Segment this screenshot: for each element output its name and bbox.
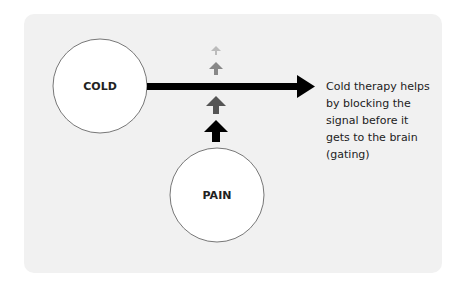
- cold-signal-arrow-icon: [147, 75, 315, 98]
- caption-line: signal before it: [326, 112, 436, 129]
- up-arrow-icon: [206, 96, 226, 114]
- pain-label: PAIN: [203, 189, 232, 202]
- up-arrow-icon: [211, 46, 221, 55]
- caption-line: gets to the brain: [326, 129, 436, 146]
- cold-node: COLD: [53, 39, 147, 133]
- gating-caption: Cold therapy helps by blocking the signa…: [326, 78, 436, 163]
- caption-line: (gating): [326, 146, 436, 163]
- pain-signal-arrows: [204, 46, 228, 142]
- up-arrow-icon: [204, 120, 228, 142]
- caption-line: Cold therapy helps: [326, 78, 436, 95]
- up-arrow-icon: [209, 62, 223, 75]
- cold-label: COLD: [83, 80, 117, 93]
- pain-node: PAIN: [170, 148, 264, 242]
- caption-line: by blocking the: [326, 95, 436, 112]
